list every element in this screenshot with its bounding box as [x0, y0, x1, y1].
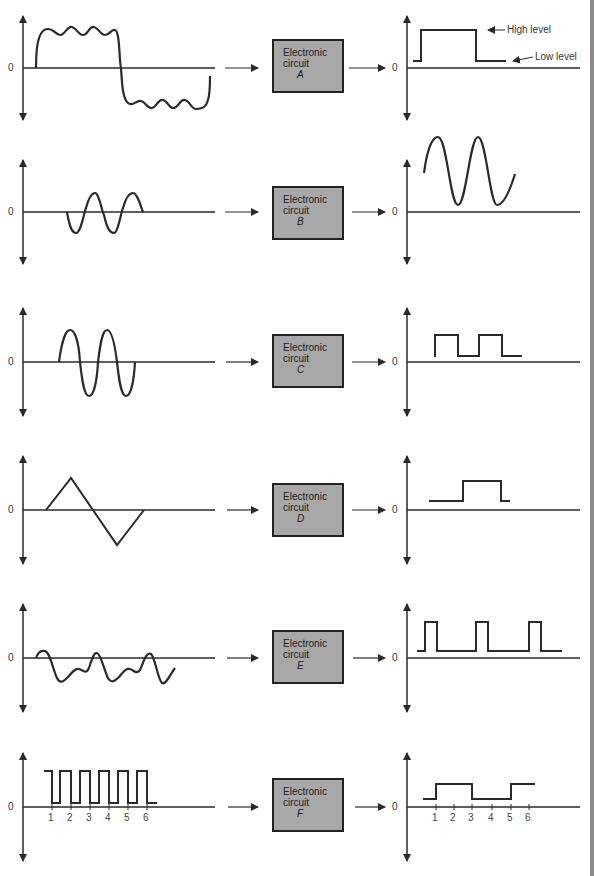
circuit-box-a: Electronic circuit A: [272, 39, 344, 93]
box-label-line1: Electronic: [283, 194, 327, 205]
input-b-zero-label: 0: [8, 206, 14, 217]
input-f-tick-6: 6: [143, 812, 149, 823]
circuit-letter: B: [283, 216, 342, 227]
output-c-waveform: [435, 335, 522, 357]
box-label-line2: circuit: [283, 797, 309, 808]
output-e-zero-label: 0: [392, 652, 398, 663]
box-label-line1: Electronic: [283, 786, 327, 797]
circuit-letter: A: [283, 69, 342, 80]
box-label-line2: circuit: [283, 205, 309, 216]
input-d-zero-label: 0: [8, 504, 14, 515]
circuit-box-f: Electronic circuit F: [272, 778, 344, 832]
input-f-waveform: [44, 771, 157, 803]
input-d-waveform: [46, 478, 144, 545]
output-e-waveform: [417, 622, 562, 651]
output-f-tick-1: 1: [432, 812, 438, 823]
circuit-box-e: Electronic circuit E: [272, 630, 344, 684]
box-label-line1: Electronic: [283, 638, 327, 649]
circuit-letter: C: [283, 364, 342, 375]
box-label-line2: circuit: [283, 502, 309, 513]
output-a-waveform: [413, 30, 506, 61]
output-a-zero-label: 0: [392, 62, 398, 73]
output-f-tick-5: 5: [507, 812, 513, 823]
input-a-zero-label: 0: [8, 62, 14, 73]
box-label-line1: Electronic: [283, 47, 327, 58]
input-f-tick-3: 3: [86, 812, 92, 823]
low-level-pointer: [513, 57, 533, 61]
output-f-tick-2: 2: [450, 812, 456, 823]
input-f-zero-label: 0: [8, 801, 14, 812]
output-f-zero-label: 0: [392, 801, 398, 812]
box-label-line2: circuit: [283, 649, 309, 660]
output-f-tick-3: 3: [468, 812, 474, 823]
high-level-label: High level: [507, 24, 551, 35]
input-e-waveform: [36, 651, 175, 684]
input-c-zero-label: 0: [8, 356, 14, 367]
output-b-zero-label: 0: [392, 206, 398, 217]
box-label-line1: Electronic: [283, 491, 327, 502]
circuit-letter: D: [283, 513, 342, 524]
input-c-waveform: [59, 330, 135, 396]
input-e-zero-label: 0: [8, 652, 14, 663]
circuit-box-d: Electronic circuit D: [272, 483, 344, 537]
low-level-label: Low level: [535, 51, 577, 62]
input-f-tick-1: 1: [48, 812, 54, 823]
output-f-waveform: [423, 784, 535, 799]
circuit-box-b: Electronic circuit B: [272, 186, 344, 240]
input-f-tick-5: 5: [124, 812, 130, 823]
output-b-waveform: [424, 137, 515, 205]
input-f-tick-2: 2: [67, 812, 73, 823]
input-f-tick-4: 4: [105, 812, 111, 823]
output-d-waveform: [429, 481, 510, 501]
circuit-letter: F: [283, 808, 342, 819]
output-f-tick-6: 6: [525, 812, 531, 823]
output-f-tick-4: 4: [488, 812, 494, 823]
circuit-box-c: Electronic circuit C: [272, 334, 344, 388]
box-label-line2: circuit: [283, 58, 309, 69]
box-label-line1: Electronic: [283, 342, 327, 353]
box-label-line2: circuit: [283, 353, 309, 364]
output-c-zero-label: 0: [392, 356, 398, 367]
circuit-diagram: [0, 0, 594, 876]
circuit-letter: E: [283, 660, 342, 671]
output-d-zero-label: 0: [392, 504, 398, 515]
page-edge-bar: [590, 0, 594, 876]
input-b-waveform: [67, 193, 143, 233]
